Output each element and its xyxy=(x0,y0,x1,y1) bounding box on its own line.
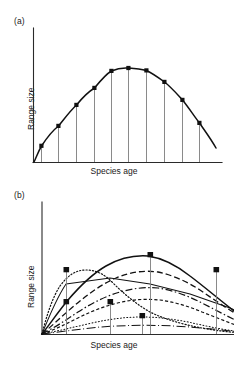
panel-a-droplines xyxy=(42,68,200,162)
panel-b-curve-dashdot xyxy=(42,288,234,335)
panel-b-curve-dashed xyxy=(42,271,234,334)
panel-a: (a) Range size Species age xyxy=(0,0,234,186)
panel-b-plot xyxy=(0,186,234,372)
figure-range-size-vs-species-age: (a) Range size Species age xyxy=(0,0,234,372)
panel-b: (b) Range size Species age xyxy=(0,186,234,372)
panel-b-curve-main xyxy=(42,256,234,334)
panel-a-data-markers xyxy=(39,66,201,148)
panel-b-data-markers xyxy=(64,252,234,326)
panel-a-plot xyxy=(0,0,234,186)
panel-a-curve xyxy=(34,68,216,162)
panel-b-curve-early-peak xyxy=(42,270,234,334)
panel-b-droplines xyxy=(67,255,234,334)
panel-b-curve-flat xyxy=(42,325,234,334)
